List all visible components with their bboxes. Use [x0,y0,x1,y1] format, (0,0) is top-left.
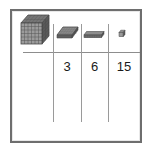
base-ten-cube-icon [20,14,50,46]
base-ten-flat-icon [56,26,79,40]
column-header-ones [108,11,140,52]
place-value-chart-screenshot: 3 6 15 [0,0,150,153]
base-ten-unit-icon [118,29,126,38]
place-value-chart: 3 6 15 [12,11,140,141]
column-header-thousands [16,11,53,52]
value-hundreds: 3 [53,56,81,78]
base-ten-rod-icon [83,30,105,39]
value-ones: 15 [108,56,140,78]
value-tens: 6 [81,56,108,78]
column-header-hundreds [53,11,81,52]
chart-panel: 3 6 15 [10,9,142,143]
column-header-tens [81,11,108,52]
